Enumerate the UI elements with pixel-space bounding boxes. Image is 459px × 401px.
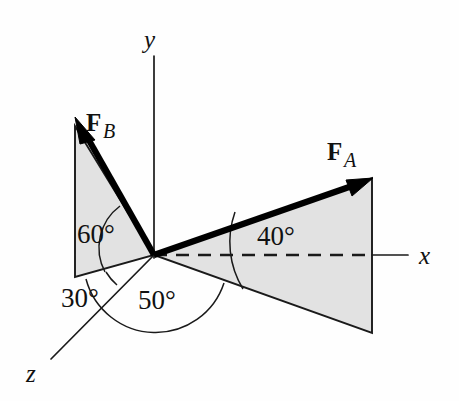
angle-30-label: 30° xyxy=(61,283,99,313)
angle-50-label: 50° xyxy=(138,285,176,315)
figure-container: y x z F B F A 60° 30° 50° 40° xyxy=(0,0,459,401)
force-b-label-main: F xyxy=(86,109,101,136)
y-axis-label: y xyxy=(141,26,156,53)
fb-plane-shading xyxy=(75,126,154,277)
angle-60-label: 60° xyxy=(77,219,115,249)
angle-40-label: 40° xyxy=(257,221,295,251)
force-vector-diagram: y x z F B F A 60° 30° 50° 40° xyxy=(0,0,459,401)
angle-30-arc xyxy=(106,272,117,285)
force-b-label-subscript: B xyxy=(103,120,115,142)
z-axis-label: z xyxy=(25,360,36,387)
x-axis-label: x xyxy=(418,242,430,269)
force-a-label-subscript: A xyxy=(342,149,357,171)
force-a-label-main: F xyxy=(327,138,342,165)
